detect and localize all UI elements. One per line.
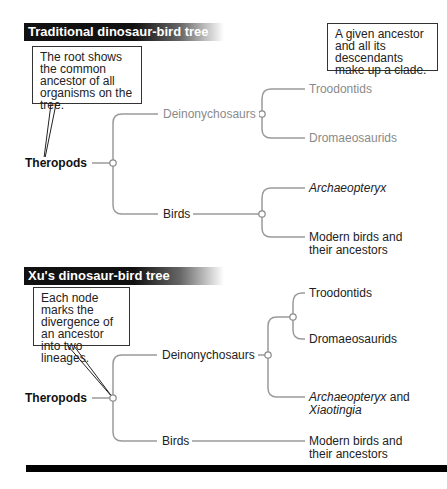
bottom-archaeopteryx-xiaotingia-label: Archaeopteryx and Xiaotingia bbox=[309, 391, 410, 417]
archaeopteryx-text: Archaeopteryx bbox=[309, 390, 386, 404]
bottom-troodontids-label: Troodontids bbox=[309, 287, 372, 300]
bottom-birds-label: Birds bbox=[159, 435, 192, 448]
node-icon bbox=[259, 111, 265, 117]
top-birds-label: Birds bbox=[160, 208, 193, 221]
node-callout: Each node marks the divergence of an anc… bbox=[33, 287, 130, 346]
top-dromaeosaurids-label: Dromaeosaurids bbox=[309, 132, 397, 145]
xiaotingia-text: Xiaotingia bbox=[309, 404, 410, 417]
top-deinonychosaurs-label: Deinonychosaurs bbox=[160, 108, 259, 121]
node-icon bbox=[110, 395, 116, 401]
top-panel-title: Traditional dinosaur-bird tree bbox=[24, 23, 224, 41]
node-icon bbox=[265, 352, 271, 358]
node-icon bbox=[290, 314, 296, 320]
root-callout: The root shows the common ancestor of al… bbox=[32, 46, 142, 104]
node-icon bbox=[110, 160, 116, 166]
bottom-divider bbox=[26, 465, 447, 472]
and-text: and bbox=[386, 390, 409, 404]
node-icon bbox=[259, 211, 265, 217]
bottom-modern-birds-label: Modern birds and their ancestors bbox=[309, 435, 402, 461]
bottom-modern-birds-line2: their ancestors bbox=[309, 448, 402, 461]
bottom-dromaeosaurids-label: Dromaeosaurids bbox=[309, 333, 397, 346]
bottom-root-label: Theropods bbox=[25, 392, 92, 405]
clade-callout: A given ancestor and all its descendants… bbox=[327, 23, 438, 71]
top-modern-birds-label: Modern birds and their ancestors bbox=[309, 231, 402, 257]
top-troodontids-label: Troodontids bbox=[309, 83, 372, 96]
bottom-deinonychosaurs-label: Deinonychosaurs bbox=[159, 349, 258, 362]
top-root-label: Theropods bbox=[25, 157, 92, 170]
top-archaeopteryx-label: Archaeopteryx bbox=[309, 182, 386, 195]
bottom-panel-title: Xu's dinosaur-bird tree bbox=[24, 267, 224, 285]
top-modern-birds-line2: their ancestors bbox=[309, 244, 402, 257]
